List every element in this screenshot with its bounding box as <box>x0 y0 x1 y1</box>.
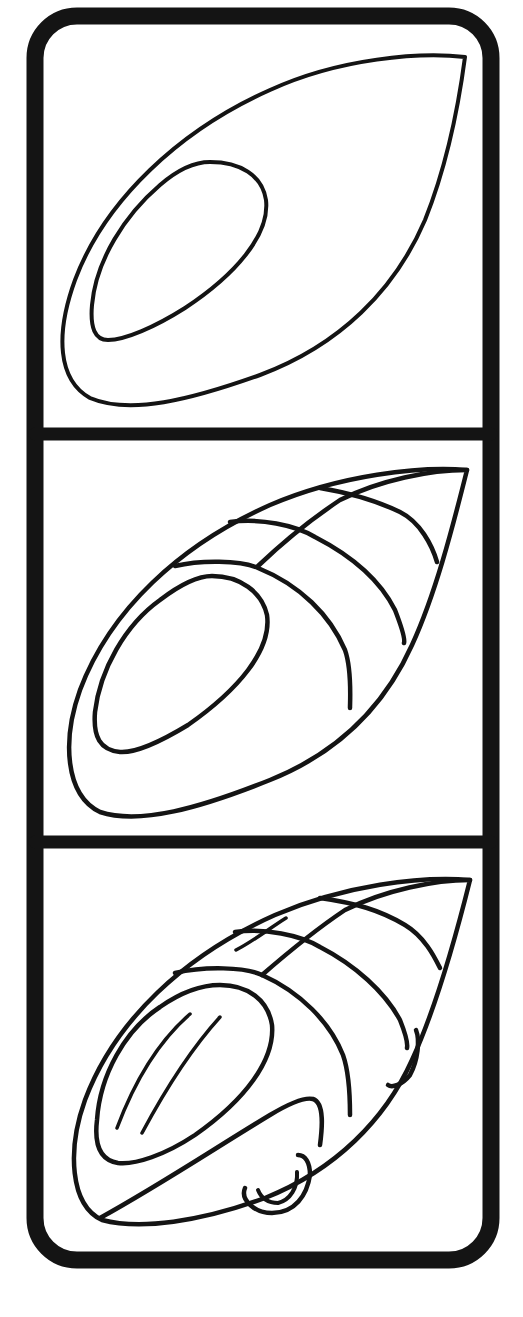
panel-step-1 <box>62 55 465 405</box>
panel-step-2 <box>69 469 467 816</box>
side-fairing <box>100 1099 322 1218</box>
panel-step-3 <box>74 879 470 1224</box>
pod-body-outline <box>62 55 465 405</box>
cockpit-canopy <box>96 985 272 1163</box>
panel-line-mid <box>235 931 407 1048</box>
drawing-tutorial-figure <box>0 0 523 1317</box>
cockpit-oval <box>92 162 267 340</box>
cockpit-oval <box>95 576 268 752</box>
windshield-highlight-2 <box>142 1017 220 1133</box>
cockpit-rim <box>175 562 350 708</box>
panel-line-mid <box>230 521 404 643</box>
